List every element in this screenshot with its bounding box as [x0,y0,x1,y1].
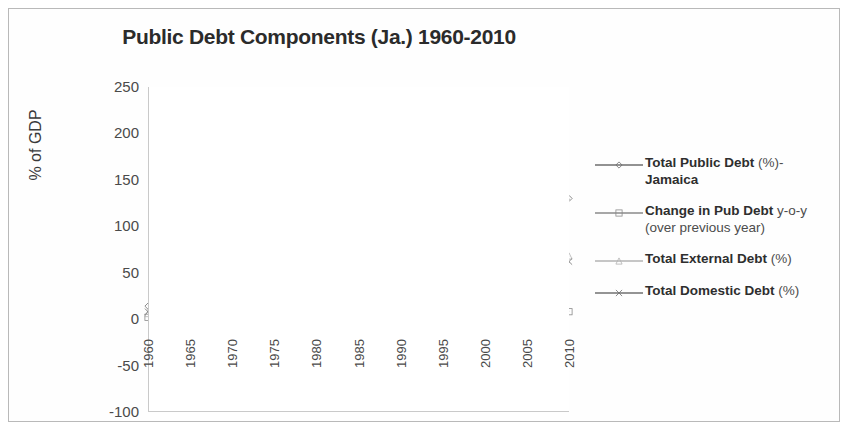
legend-label: Total External Debt (%) [645,251,792,268]
chart-legend: Total Public Debt (%)-JamaicaChange in P… [593,155,843,315]
chart-frame: Public Debt Components (Ja.) 1960-2010 %… [8,8,840,422]
x-tick-label: 1990 [394,339,409,368]
x-axis-ticks: 1960196519701975198019851990199520002005… [148,339,569,409]
legend-marker-x-icon [593,285,645,301]
x-tick-label: 2000 [478,339,493,368]
legend-item[interactable]: Change in Pub Debt y-o-y(over previous y… [593,203,843,237]
x-tick-label: 1985 [352,339,367,368]
y-tick-label: -100 [93,403,139,420]
y-tick-label: 100 [93,217,139,234]
x-tick-label: 2005 [520,339,535,368]
x-tick-label: 1975 [267,339,282,368]
legend-item[interactable]: Total Domestic Debt (%) [593,283,843,301]
legend-marker-diamond-icon [593,157,645,173]
y-axis-title: % of GDP [27,85,45,205]
y-tick-label: 50 [93,264,139,281]
x-tick-label: 1970 [225,339,240,368]
y-tick-label: 250 [93,78,139,95]
legend-item[interactable]: Total Public Debt (%)-Jamaica [593,155,843,189]
y-tick-label: -50 [93,357,139,374]
legend-marker-square-icon [593,205,645,221]
chart-title: Public Debt Components (Ja.) 1960-2010 [9,25,629,49]
y-tick-label: 150 [93,171,139,188]
y-axis-ticks: 250200150100500-50-100 [93,87,139,412]
legend-label: Total Public Debt (%)-Jamaica [645,155,784,189]
x-tick-label: 2010 [562,339,577,368]
x-tick-label: 1995 [436,339,451,368]
y-tick-label: 0 [93,310,139,327]
x-tick-label: 1960 [141,339,156,368]
legend-marker-triangle-icon [593,253,645,269]
x-tick-label: 1980 [309,339,324,368]
y-tick-label: 200 [93,124,139,141]
x-tick-label: 1965 [183,339,198,368]
legend-label: Change in Pub Debt y-o-y(over previous y… [645,203,807,237]
legend-label: Total Domestic Debt (%) [645,283,799,300]
legend-item[interactable]: Total External Debt (%) [593,251,843,269]
